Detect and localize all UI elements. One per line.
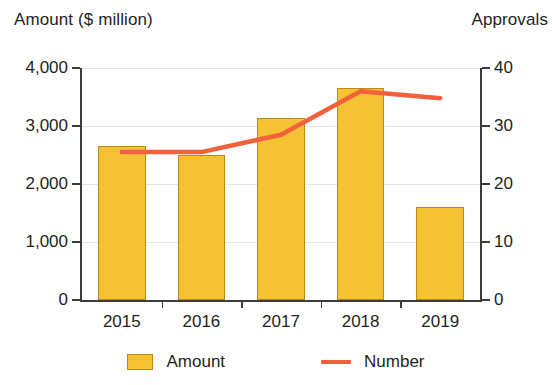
bar	[337, 88, 385, 300]
right-axis-tick	[482, 183, 490, 185]
bar	[178, 155, 226, 300]
left-axis-tick	[72, 299, 80, 301]
x-axis-tick	[400, 300, 402, 308]
left-axis-tick-label: 2,000	[25, 174, 68, 194]
right-axis-tick-label: 0	[494, 290, 503, 310]
left-axis-tick-label: 1,000	[25, 232, 68, 252]
right-axis-tick	[482, 241, 490, 243]
right-axis-tick	[482, 125, 490, 127]
x-axis-label: 2015	[103, 312, 141, 332]
legend-bar-swatch-icon	[127, 354, 153, 370]
legend-item-amount: Amount	[127, 352, 225, 372]
legend-line-swatch-icon	[321, 360, 351, 365]
left-axis-tick	[72, 241, 80, 243]
left-axis-tick-label: 0	[59, 290, 68, 310]
right-axis-tick-label: 20	[494, 174, 513, 194]
x-axis-label: 2017	[262, 312, 300, 332]
x-axis-label: 2018	[342, 312, 380, 332]
x-axis-line	[80, 300, 481, 302]
right-axis-tick-label: 30	[494, 116, 513, 136]
x-axis-tick	[321, 300, 323, 308]
right-axis-tick-label: 10	[494, 232, 513, 252]
right-axis-tick	[482, 67, 490, 69]
x-axis-tick	[241, 300, 243, 308]
legend-label-amount: Amount	[166, 352, 225, 372]
x-axis-label: 2016	[182, 312, 220, 332]
legend-item-number: Number	[321, 352, 424, 372]
left-axis-tick	[72, 183, 80, 185]
left-axis-tick-label: 4,000	[25, 58, 68, 78]
right-axis-tick-label: 40	[494, 58, 513, 78]
x-axis-tick	[162, 300, 164, 308]
left-axis-tick	[72, 67, 80, 69]
left-axis-tick-label: 3,000	[25, 116, 68, 136]
right-axis-title: Approvals	[472, 10, 549, 30]
legend-label-number: Number	[364, 352, 424, 372]
right-axis-tick	[482, 299, 490, 301]
chart-legend: Amount Number	[0, 352, 552, 372]
bar	[416, 207, 464, 300]
left-axis-line	[80, 68, 82, 300]
left-axis-title: Amount ($ million)	[14, 10, 153, 30]
bar	[98, 146, 146, 300]
plot-area: 01,0002,0003,0004,000 010203040 20152016…	[82, 68, 480, 300]
chart-container: Amount ($ million) Approvals 01,0002,000…	[0, 0, 552, 385]
bar	[257, 118, 305, 300]
x-axis-label: 2019	[421, 312, 459, 332]
gridline	[82, 68, 480, 69]
left-axis-tick	[72, 125, 80, 127]
